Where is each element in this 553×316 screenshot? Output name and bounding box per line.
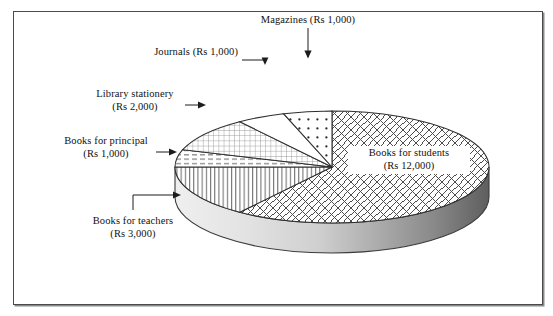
leader-books-for-teachers bbox=[133, 195, 178, 210]
arrowhead-library-stationery bbox=[198, 102, 206, 109]
arrowhead-books-for-principal bbox=[169, 149, 177, 156]
callout-books-for-teachers: Books for teachers (Rs 3,000) bbox=[83, 215, 183, 240]
callout-books-for-principal: Books for principal (Rs 1,000) bbox=[58, 135, 154, 160]
callout-library-stationery-line1: Library stationery bbox=[88, 88, 182, 101]
callout-magazines-line1: Magazines (Rs 1,000) bbox=[232, 14, 384, 27]
callout-books-for-students: Books for students (Rs 12,000) bbox=[348, 146, 470, 174]
callout-books-for-teachers-line2: (Rs 3,000) bbox=[83, 228, 183, 241]
figure-canvas: Magazines (Rs 1,000) Journals (Rs 1,000)… bbox=[0, 0, 553, 316]
callout-books-for-teachers-line1: Books for teachers bbox=[83, 215, 183, 228]
callout-books-for-students-line1: Books for students bbox=[352, 147, 466, 160]
leader-journals bbox=[242, 60, 265, 63]
callout-journals: Journals (Rs 1,000) bbox=[122, 46, 238, 59]
arrowhead-journals bbox=[262, 58, 269, 66]
callout-journals-line1: Journals (Rs 1,000) bbox=[122, 46, 238, 59]
callout-magazines: Magazines (Rs 1,000) bbox=[232, 14, 384, 27]
callout-library-stationery: Library stationery (Rs 2,000) bbox=[88, 88, 182, 113]
callout-books-for-principal-line2: (Rs 1,000) bbox=[58, 148, 154, 161]
callout-library-stationery-line2: (Rs 2,000) bbox=[88, 101, 182, 114]
arrowhead-magazines bbox=[304, 51, 311, 59]
callout-books-for-principal-line1: Books for principal bbox=[58, 135, 154, 148]
callout-books-for-students-line2: (Rs 12,000) bbox=[352, 160, 466, 173]
